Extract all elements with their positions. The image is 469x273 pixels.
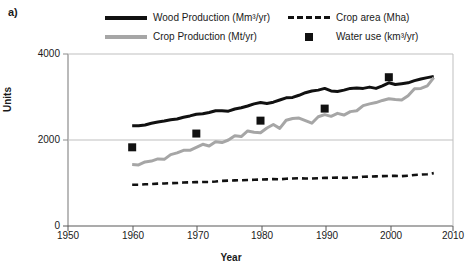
series-crop-area-mha <box>132 173 434 185</box>
data-point-marker <box>321 105 329 113</box>
series-line <box>132 173 434 185</box>
data-series-layer <box>128 73 434 185</box>
series-crop-production-mt-yr <box>132 78 434 165</box>
axis-ticks <box>63 54 453 231</box>
series-wood-production-mm3-yr <box>132 76 434 125</box>
data-point-marker <box>257 117 265 125</box>
series-line <box>132 78 434 165</box>
series-line <box>132 76 434 125</box>
data-point-marker <box>385 73 393 81</box>
data-point-marker <box>128 143 136 151</box>
data-point-marker <box>192 130 200 138</box>
